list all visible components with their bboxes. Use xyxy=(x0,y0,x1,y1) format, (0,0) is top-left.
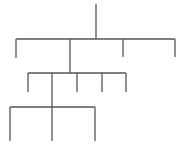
tree-diagram xyxy=(0,0,182,147)
